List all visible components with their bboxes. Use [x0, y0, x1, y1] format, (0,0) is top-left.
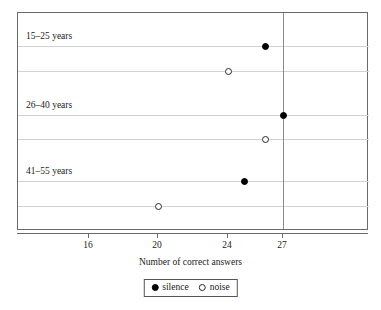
legend: silence noise [143, 279, 237, 297]
x-axis-tick-16 [88, 233, 89, 238]
filled-circle-icon [151, 284, 158, 291]
data-point-silence-15-25[interactable] [262, 43, 269, 50]
gridline-row-5 [18, 181, 369, 182]
x-axis-ticklabel-16: 16 [73, 240, 103, 251]
gridline-row-3 [18, 115, 369, 116]
gridline-row-2 [18, 71, 369, 72]
x-axis-ticklabel-27: 27 [267, 240, 297, 251]
reference-line-27 [283, 13, 284, 229]
group-label-26-40: 26–40 years [26, 100, 72, 111]
data-point-silence-26-40[interactable] [280, 112, 287, 119]
data-point-silence-41-55[interactable] [241, 178, 248, 185]
legend-item-noise[interactable]: noise [199, 282, 230, 293]
x-axis-line [17, 233, 368, 234]
x-axis-tick-27 [282, 233, 283, 238]
legend-item-silence[interactable]: silence [151, 282, 188, 293]
x-axis-ticklabel-24: 24 [212, 240, 242, 251]
legend-label-noise: noise [210, 282, 230, 293]
x-axis-title: Number of correct answers [0, 256, 381, 268]
group-label-41-55: 41–55 years [26, 166, 72, 177]
gridline-row-4 [18, 139, 369, 140]
data-point-noise-26-40[interactable] [262, 136, 269, 143]
group-label-15-25: 15–25 years [26, 31, 72, 42]
open-circle-icon [199, 284, 206, 291]
plot-panel: 15–25 years 26–40 years 41–55 years [17, 12, 368, 230]
x-axis-tick-24 [227, 233, 228, 238]
legend-label-silence: silence [162, 282, 188, 293]
x-axis-ticklabel-20: 20 [142, 240, 172, 251]
x-axis-tick-20 [157, 233, 158, 238]
gridline-row-1 [18, 46, 369, 47]
gridline-row-6 [18, 206, 369, 207]
data-point-noise-41-55[interactable] [155, 203, 162, 210]
data-point-noise-15-25[interactable] [225, 68, 232, 75]
dot-plot-figure: 15–25 years 26–40 years 41–55 years 16 2… [0, 0, 381, 310]
